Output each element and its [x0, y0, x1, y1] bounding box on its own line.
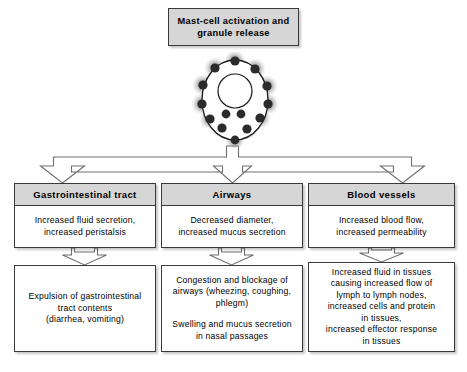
- eff-bv-line-4: increased cells and protein: [328, 301, 436, 311]
- effects-bv-inner: Increased fluid in tissues causing incre…: [309, 263, 454, 351]
- eff-air-b-line-2: in nasal passages: [196, 331, 268, 341]
- effects-gi-inner: Expulsion of gastrointestinal tract cont…: [15, 266, 155, 351]
- eff-gi-line-3: (diarrhea, vomiting): [46, 314, 124, 324]
- response-gi-line-1: Increased fluid secretion,: [35, 215, 136, 225]
- response-gi-line-2: increased peristalsis: [44, 227, 126, 237]
- eff-bv-line-2: causing increased flow of: [331, 278, 433, 288]
- eff-gi-line-2: tract contents: [58, 303, 112, 313]
- column-header-blood-vessels: Blood vessels: [309, 184, 454, 206]
- response-gastrointestinal: Increased fluid secretion, increased per…: [15, 206, 155, 247]
- effects-gastrointestinal: Expulsion of gastrointestinal tract cont…: [14, 265, 156, 352]
- response-air-line-2: increased mucus secretion: [178, 227, 285, 237]
- column-airways: Airways Decreased diameter, increased mu…: [161, 183, 303, 248]
- column-header-gastrointestinal: Gastrointestinal tract: [15, 184, 155, 206]
- eff-bv-line-1: Increased fluid in tissues: [332, 267, 431, 277]
- diagram-canvas: Mast-cell activation and granule release: [0, 0, 467, 372]
- response-blood-vessels: Increased blood flow, increased permeabi…: [309, 206, 454, 247]
- eff-air-b-line-1: Swelling and mucus secretion: [172, 319, 291, 329]
- column-blood-vessels: Blood vessels Increased blood flow, incr…: [308, 183, 455, 248]
- eff-bv-line-3: lymph to lymph nodes,: [336, 290, 426, 300]
- eff-bv-line-7: in tissues: [363, 336, 401, 346]
- response-bv-line-2: increased permeability: [336, 227, 426, 237]
- column-gastrointestinal: Gastrointestinal tract Increased fluid s…: [14, 183, 156, 248]
- response-airways: Decreased diameter, increased mucus secr…: [162, 206, 302, 247]
- title-line-2: granule release: [197, 28, 270, 38]
- effects-blood-vessels: Increased fluid in tissues causing incre…: [308, 262, 455, 352]
- mast-cell-illustration: [188, 52, 283, 148]
- eff-air-a-line-3: phlegm): [216, 298, 248, 308]
- column-header-airways: Airways: [162, 184, 302, 206]
- response-air-line-1: Decreased diameter,: [190, 215, 273, 225]
- eff-air-a-line-1: Congestion and blockage of: [176, 275, 288, 285]
- cell-nucleus: [218, 74, 252, 108]
- effects-airways: Congestion and blockage of airways (whee…: [161, 265, 303, 352]
- title-box: Mast-cell activation and granule release: [168, 8, 299, 46]
- title-text: Mast-cell activation and granule release: [169, 9, 298, 45]
- effects-air-inner: Congestion and blockage of airways (whee…: [162, 266, 302, 351]
- eff-air-a-line-2: airways (wheezing, coughing,: [173, 286, 291, 296]
- eff-gi-line-1: Expulsion of gastrointestinal: [29, 291, 142, 301]
- title-line-1: Mast-cell activation and: [177, 16, 289, 26]
- eff-bv-line-6: increased effector response: [326, 324, 437, 334]
- eff-bv-line-5: in tissues,: [361, 313, 401, 323]
- response-bv-line-1: Increased blood flow,: [339, 215, 424, 225]
